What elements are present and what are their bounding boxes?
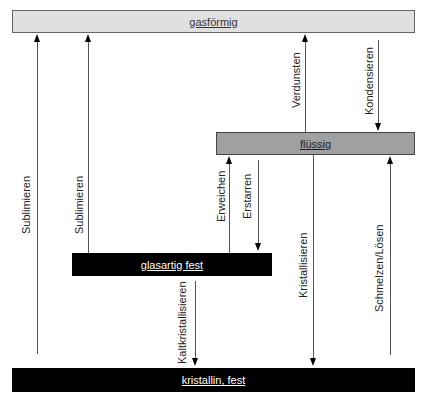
arrow-line (258, 160, 259, 244)
arrow-up-icon (302, 34, 308, 42)
transition-label: Schmelzen/Lösen (373, 225, 385, 312)
arrow-down-icon (255, 243, 261, 251)
arrow-up-icon (34, 34, 40, 42)
arrow-up-icon (85, 34, 91, 42)
state-gas-label: gasförmig (189, 16, 237, 28)
arrow-up-icon (226, 156, 232, 164)
arrow-down-icon (192, 358, 198, 366)
arrow-line (390, 163, 391, 355)
transition-label: Kristallisieren (297, 233, 309, 298)
arrow-down-icon (310, 358, 316, 366)
state-glass-box: glasartig fest (72, 253, 272, 276)
arrow-line (378, 40, 379, 124)
transition-label: Verdunsten (290, 52, 302, 108)
arrow-down-icon (375, 123, 381, 131)
arrow-up-icon (387, 156, 393, 164)
state-crystal-label: kristallin, fest (182, 374, 246, 386)
arrow-line (37, 41, 38, 354)
arrow-line (88, 41, 89, 253)
state-glass-label: glasartig fest (141, 259, 203, 271)
arrow-line (313, 155, 314, 359)
transition-label: Kondensieren (363, 47, 375, 115)
transition-label: Sublimieren (73, 176, 85, 234)
arrow-line (229, 163, 230, 253)
state-gas-box: gasförmig (12, 10, 415, 33)
state-liquid-label: flüssig (300, 138, 331, 150)
transition-label: Kaltkristallisieren (176, 281, 188, 364)
phase-transition-diagram: gasförmig flüssig glasartig fest kristal… (0, 0, 424, 402)
transition-label: Erstarren (241, 174, 253, 219)
state-liquid-box: flüssig (216, 132, 415, 155)
state-crystal-box: kristallin, fest (12, 368, 415, 392)
arrow-line (195, 281, 196, 359)
transition-label: Erweichen (215, 171, 227, 222)
transition-label: Sublimieren (20, 176, 32, 234)
arrow-line (305, 41, 306, 132)
